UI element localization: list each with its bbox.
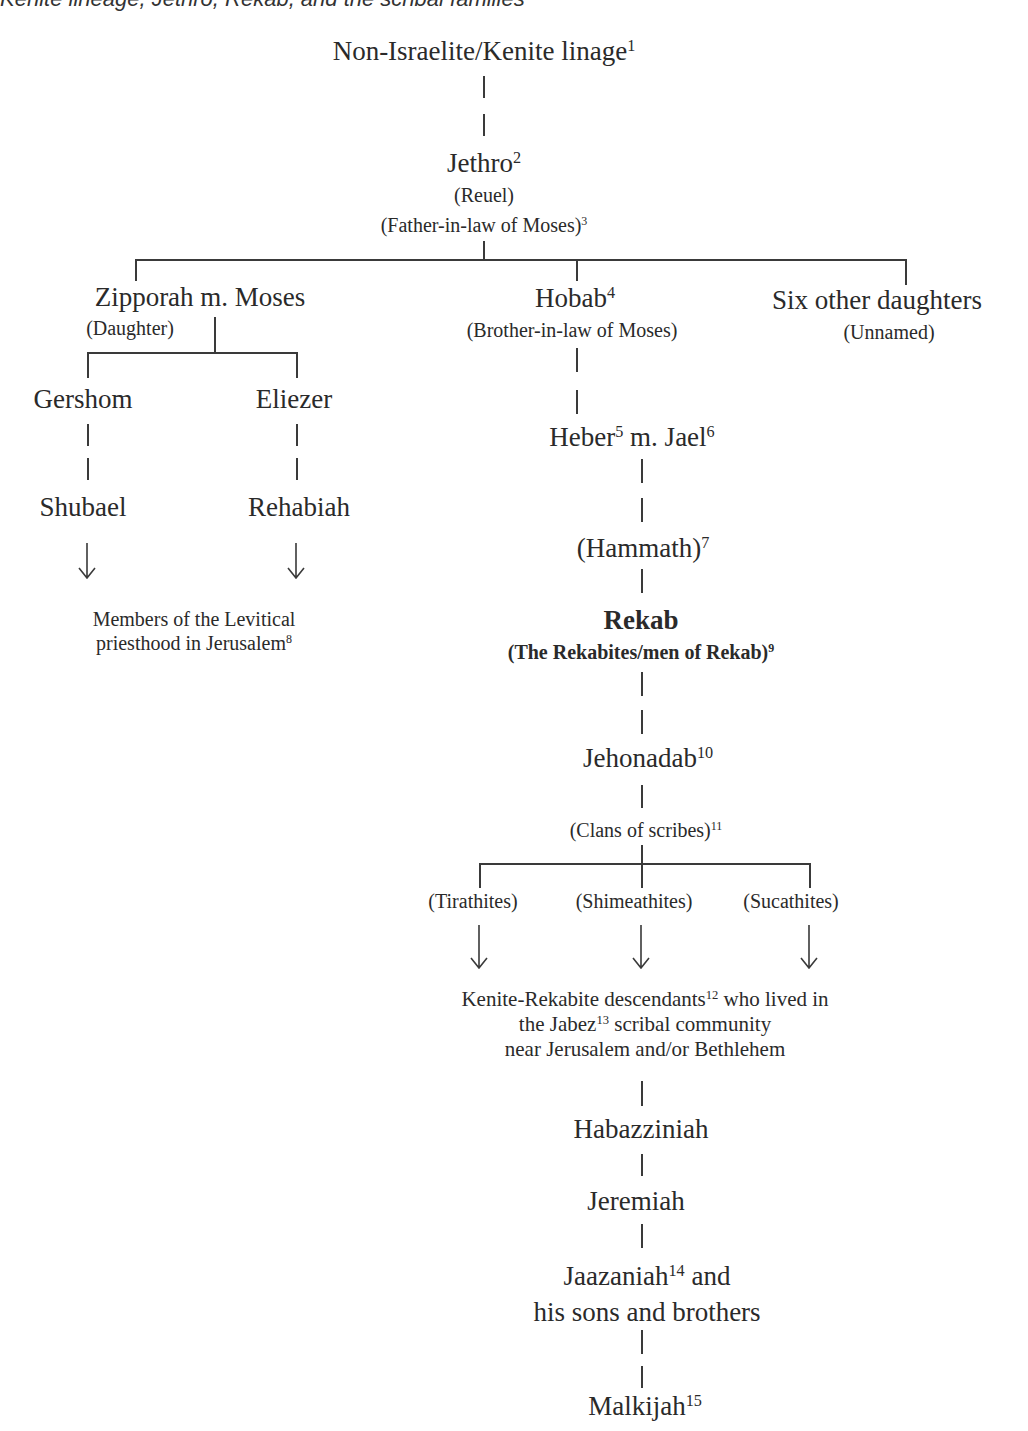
connector — [483, 114, 485, 136]
connector — [641, 1154, 643, 1176]
bracket-zipporah-children — [87, 352, 298, 354]
node-jaazaniah: Jaazaniah14 and his sons and brothers — [533, 1259, 760, 1330]
connector — [641, 569, 643, 593]
connector — [296, 458, 298, 480]
connector — [214, 317, 216, 352]
bracket-clans — [479, 863, 810, 865]
node-jeremiah: Jeremiah — [587, 1188, 684, 1215]
connector — [641, 1081, 643, 1106]
connector — [87, 458, 89, 480]
connector — [641, 845, 643, 888]
connector — [296, 424, 298, 446]
node-gershom: Gershom — [34, 386, 133, 413]
node-levitical-priesthood: Members of the Leviticalpriesthood in Je… — [93, 607, 296, 655]
node-sucathites: (Sucathites) — [743, 891, 839, 911]
connector — [483, 76, 485, 98]
connector — [479, 863, 481, 888]
connector — [576, 348, 578, 372]
node-clans-of-scribes: (Clans of scribes)11 — [570, 820, 723, 840]
connector — [576, 259, 578, 281]
node-rehabiah: Rehabiah — [248, 494, 350, 521]
connector — [905, 259, 907, 285]
connector — [809, 863, 811, 888]
node-hobab: Hobab4 — [535, 285, 615, 312]
node-tirathites: (Tirathites) — [428, 891, 517, 911]
connector — [641, 1224, 643, 1248]
node-hammath: (Hammath)7 — [577, 535, 710, 562]
node-kenite-rekabite-descendants: Kenite-Rekabite descendants12 who lived … — [461, 987, 828, 1063]
connector — [296, 352, 298, 378]
node-habazziniah: Habazziniah — [574, 1116, 709, 1143]
bracket-jethro-children — [135, 259, 906, 261]
node-eliezer: Eliezer — [256, 386, 332, 413]
jethro-alias: (Reuel) — [454, 185, 514, 205]
node-shimeathites: (Shimeathites) — [576, 891, 693, 911]
node-shubael: Shubael — [40, 494, 127, 521]
connector — [87, 424, 89, 446]
clipped-caption: Kenite lineage, Jethro, Rekab, and the s… — [0, 0, 525, 12]
node-jethro: Jethro2 — [447, 150, 521, 177]
connector — [576, 390, 578, 414]
node-heber: Heber5 m. Jael6 — [549, 424, 714, 451]
node-malkijah: Malkijah15 — [588, 1393, 702, 1420]
connector — [641, 459, 643, 483]
down-arrow-icon — [799, 925, 819, 969]
connector — [641, 1366, 643, 1388]
zipporah-role: (Daughter) — [86, 318, 174, 338]
connector — [135, 259, 137, 281]
down-arrow-icon — [77, 543, 97, 579]
node-root: Non-Israelite/Kenite linage1 — [333, 38, 636, 65]
rekab-role: (The Rekabites/men of Rekab)9 — [508, 642, 775, 662]
six-daughters-role: (Unnamed) — [843, 322, 934, 342]
node-six-daughters: Six other daughters — [772, 287, 982, 314]
hobab-role: (Brother-in-law of Moses) — [467, 320, 678, 340]
connector — [641, 672, 643, 696]
connector — [641, 498, 643, 522]
connector — [483, 241, 485, 260]
connector — [641, 785, 643, 808]
node-rekab: Rekab — [603, 607, 678, 634]
jethro-role: (Father-in-law of Moses)3 — [381, 215, 588, 235]
down-arrow-icon — [286, 543, 306, 579]
connector — [87, 352, 89, 378]
down-arrow-icon — [469, 925, 489, 969]
node-jehonadab: Jehonadab10 — [583, 745, 713, 772]
connector — [641, 710, 643, 734]
connector — [641, 1330, 643, 1354]
node-zipporah: Zipporah m. Moses — [95, 284, 306, 311]
down-arrow-icon — [631, 925, 651, 969]
